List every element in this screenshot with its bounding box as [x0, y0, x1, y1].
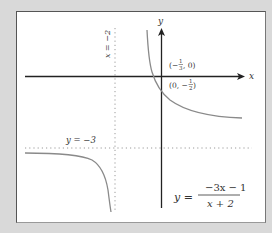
- svg-text:(−: (−: [169, 61, 178, 70]
- svg-text:1: 1: [179, 58, 183, 64]
- x-axis-label: x: [249, 71, 254, 81]
- horizontal-asymptote-label: y = −3: [65, 135, 96, 145]
- curve-left-branch: [25, 153, 111, 212]
- equation-denominator: x + 2: [207, 198, 234, 209]
- svg-text:(0, −: (0, −: [169, 81, 188, 90]
- svg-text:): ): [193, 81, 196, 90]
- equation-numerator: −3x − 1: [205, 182, 246, 193]
- svg-text:2: 2: [189, 85, 193, 91]
- graph-canvas: y x x = −2 y = −3 (− 1 3 , 0) (0, − 1 2 …: [0, 0, 277, 242]
- vertical-asymptote-label: x = −2: [103, 30, 112, 58]
- equation-label: y = −3x − 1 x + 2: [173, 182, 246, 209]
- svg-text:1: 1: [189, 78, 193, 84]
- x-intercept-label: (− 1 3 , 0): [169, 58, 196, 71]
- equation-lhs: y =: [173, 191, 193, 204]
- y-intercept-label: (0, − 1 2 ): [169, 78, 196, 91]
- svg-text:, 0): , 0): [183, 61, 196, 70]
- y-axis-label: y: [157, 16, 164, 26]
